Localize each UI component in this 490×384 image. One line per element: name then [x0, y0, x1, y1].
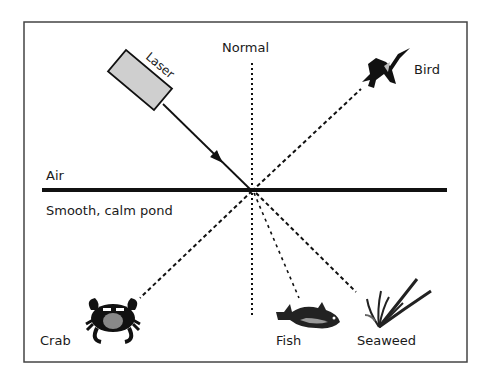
label-air: Air: [46, 168, 65, 183]
diagram-canvas: Normal Laser Bird Air Smooth, calm pond …: [0, 0, 490, 384]
label-bird: Bird: [414, 62, 440, 77]
label-pond: Smooth, calm pond: [46, 203, 173, 218]
label-fish: Fish: [276, 333, 301, 348]
label-normal: Normal: [222, 40, 269, 55]
label-seaweed: Seaweed: [357, 333, 416, 348]
label-crab: Crab: [40, 333, 71, 348]
